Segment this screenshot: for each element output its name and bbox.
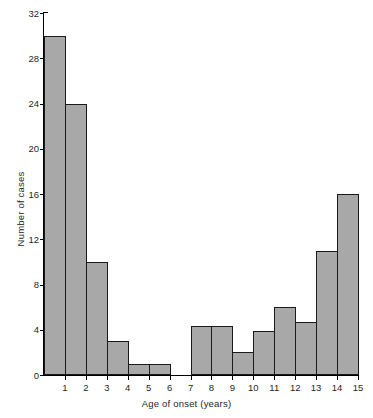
histogram-bar — [232, 352, 254, 375]
histogram-bar — [191, 326, 213, 375]
histogram-bar — [295, 322, 317, 375]
y-axis-tick-label: 8 — [17, 279, 39, 290]
x-axis-tick-label: 14 — [327, 382, 347, 393]
x-axis-line — [43, 375, 359, 376]
x-axis-tick-mark — [274, 376, 275, 380]
x-axis-tick-mark — [149, 376, 150, 380]
y-axis-tick-label: 28 — [17, 53, 39, 64]
y-axis-tick-label: 32 — [17, 8, 39, 19]
x-axis-tick-mark — [86, 376, 87, 380]
histogram-bar — [316, 251, 338, 375]
x-axis-tick-mark — [65, 376, 66, 380]
y-axis-tick-label: 20 — [17, 143, 39, 154]
y-axis-tick-label: 16 — [17, 189, 39, 200]
x-axis-tick-mark — [107, 376, 108, 380]
x-axis-tick-label: 13 — [306, 382, 326, 393]
x-axis-tick-mark — [128, 376, 129, 380]
x-axis-tick-label: 12 — [285, 382, 305, 393]
histogram-bar — [107, 341, 129, 375]
histogram-bar — [337, 194, 359, 375]
histogram-bar — [274, 307, 296, 375]
y-axis-tick-mark — [40, 13, 44, 14]
histogram-bar — [86, 262, 108, 375]
x-axis-tick-mark — [211, 376, 212, 380]
x-axis-tick-mark — [358, 376, 359, 380]
x-axis-title: Age of onset (years) — [0, 398, 373, 409]
x-axis-tick-label: 15 — [348, 382, 368, 393]
x-axis-tick-label: 7 — [181, 382, 201, 393]
histogram-bar — [253, 331, 275, 375]
histogram-bar — [211, 326, 233, 375]
y-axis-tick-label: 0 — [17, 370, 39, 381]
x-axis-tick-label: 10 — [243, 382, 263, 393]
x-axis-tick-mark — [253, 376, 254, 380]
y-axis-tick-labels: 048121620242832 — [17, 0, 39, 418]
y-axis-tick-label: 4 — [17, 324, 39, 335]
x-axis-tick-label: 9 — [222, 382, 242, 393]
y-axis-tick-label: 24 — [17, 98, 39, 109]
histogram-bar — [128, 364, 150, 375]
x-axis-tick-label: 6 — [160, 382, 180, 393]
x-axis-tick-label: 8 — [201, 382, 221, 393]
x-axis-tick-mark — [191, 376, 192, 380]
x-axis-tick-label: 2 — [76, 382, 96, 393]
x-axis-tick-mark — [232, 376, 233, 380]
histogram-bar — [44, 36, 66, 375]
x-axis-tick-label: 3 — [97, 382, 117, 393]
plot-area — [44, 13, 358, 375]
y-axis-tick-mark — [40, 375, 44, 376]
x-axis-tick-mark — [337, 376, 338, 380]
histogram-bar — [149, 364, 171, 375]
x-axis-tick-mark — [316, 376, 317, 380]
x-axis-tick-label: 4 — [118, 382, 138, 393]
histogram-chart: Number of cases 048121620242832 12345678… — [0, 0, 373, 418]
x-axis-tick-label: 5 — [139, 382, 159, 393]
x-axis-tick-label: 11 — [264, 382, 284, 393]
x-axis-tick-label: 1 — [55, 382, 75, 393]
x-axis-tick-mark — [170, 376, 171, 380]
y-axis-tick-label: 12 — [17, 234, 39, 245]
histogram-bar — [65, 104, 87, 376]
x-axis-tick-mark — [295, 376, 296, 380]
